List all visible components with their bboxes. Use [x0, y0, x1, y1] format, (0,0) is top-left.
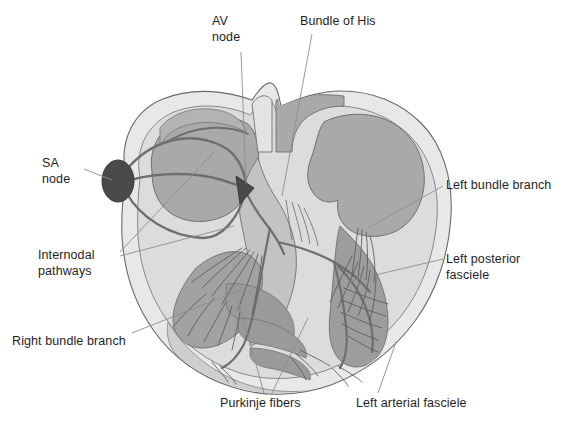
label-sa-node: SA node — [42, 156, 70, 187]
label-right-bundle-branch: Right bundle branch — [12, 334, 126, 350]
heart-diagram-svg — [0, 0, 562, 434]
sa-node-marker — [102, 160, 134, 202]
label-purkinje-fibers: Purkinje fibers — [220, 396, 301, 412]
label-av-node: AV node — [212, 14, 240, 45]
label-left-posterior-fasciele: Left posterior fasciele — [446, 252, 520, 283]
label-left-bundle-branch: Left bundle branch — [446, 178, 551, 194]
label-left-arterial-fasciele: Left arterial fasciele — [356, 396, 467, 412]
conduction-system-figure: SA node AV node Bundle of His Internodal… — [0, 0, 562, 434]
label-bundle-of-his: Bundle of His — [300, 14, 376, 30]
label-internodal-pathways: Internodal pathways — [38, 248, 95, 279]
